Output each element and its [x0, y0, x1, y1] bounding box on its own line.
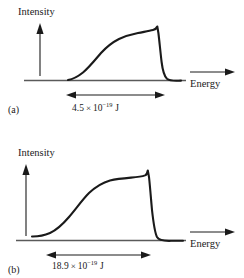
measurement-arrow-a — [66, 91, 165, 98]
multiply-icon: × — [86, 103, 91, 113]
y-axis-label: Intensity — [18, 148, 55, 159]
energy-axis-arrow — [190, 229, 235, 236]
spectrum-curve — [32, 171, 183, 241]
panel-a-plot — [0, 0, 244, 139]
spectra-figure: Intensity Energy (a) 4.5×10−19J — [0, 0, 244, 278]
y-axis-label: Intensity — [18, 7, 55, 18]
panel-b: Intensity Energy (b) 18.9×10−19J — [0, 139, 244, 278]
measure-mantissa-b: 18.9 — [52, 261, 69, 271]
measure-mantissa-a: 4.5 — [72, 103, 84, 113]
panel-tag-b: (b) — [8, 265, 20, 275]
panel-a: Intensity Energy (a) 4.5×10−19J — [0, 0, 244, 139]
measurement-arrow-b — [46, 251, 151, 258]
measure-unit-a: J — [115, 103, 119, 113]
measurement-label-b: 18.9×10−19J — [52, 262, 104, 272]
panel-b-plot — [0, 139, 244, 278]
measure-exponent-b: −19 — [87, 259, 97, 266]
measure-unit-b: J — [100, 261, 104, 271]
x-axis-label: Energy — [190, 79, 220, 90]
multiply-icon: × — [71, 261, 76, 271]
energy-axis-arrow — [190, 69, 235, 76]
intensity-axis-arrow — [36, 23, 43, 76]
intensity-axis-arrow — [22, 164, 29, 236]
measure-exponent-a: −19 — [102, 101, 112, 108]
measure-base-b: 10 — [78, 261, 88, 271]
panel-tag-a: (a) — [8, 105, 19, 115]
x-axis-label: Energy — [190, 239, 220, 250]
measurement-label-a: 4.5×10−19J — [72, 104, 119, 114]
spectrum-curve — [68, 27, 181, 81]
